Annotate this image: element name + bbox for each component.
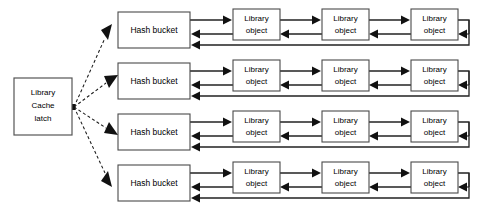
arrow-right-icon <box>312 169 321 178</box>
arrow-right-icon <box>223 16 232 25</box>
latch-links: Library Cache latch <box>14 24 118 187</box>
chain-row-4: Hash bucket Library object Library objec… <box>118 162 469 202</box>
library-object-label-line1: Library <box>333 167 357 176</box>
arrow-right-icon <box>223 118 232 127</box>
arrow-left-icon <box>280 132 289 141</box>
arrow-right-icon <box>223 67 232 76</box>
arrow-left-icon <box>191 132 200 141</box>
arrow-left-icon <box>191 183 200 192</box>
library-object-label-line1: Library <box>422 167 446 176</box>
arrow-left-icon <box>369 81 378 90</box>
library-object-label-line1: Library <box>333 14 357 23</box>
hash-bucket-label: Hash bucket <box>130 178 178 188</box>
library-object-label-line2: object <box>246 128 268 137</box>
library-object-label-line2: object <box>335 179 357 188</box>
arrow-right-icon <box>312 118 321 127</box>
library-object-label-line1: Library <box>244 116 268 125</box>
library-cache-diagram: Hash bucket Library object Library objec… <box>0 0 484 211</box>
library-object-label-line2: object <box>424 26 446 35</box>
chain-row-2: Hash bucket Library object Library objec… <box>118 60 469 100</box>
arrow-left-icon <box>280 183 289 192</box>
library-object-label-line1: Library <box>422 116 446 125</box>
arrow-right-icon <box>401 67 410 76</box>
library-object-label-line1: Library <box>333 65 357 74</box>
chain-row-3: Hash bucket Library object Library objec… <box>118 111 469 151</box>
library-object-label-line2: object <box>335 26 357 35</box>
library-object-label-line2: object <box>246 26 268 35</box>
latch-label-line1: Library <box>31 88 55 97</box>
latch-label-line2: Cache <box>31 101 55 110</box>
arrow-left-icon <box>191 81 200 90</box>
library-object-label-line1: Library <box>333 116 357 125</box>
hash-bucket-label: Hash bucket <box>130 76 178 86</box>
arrow-left-icon <box>369 183 378 192</box>
library-object-label-line2: object <box>424 128 446 137</box>
arrow-left-icon <box>369 30 378 39</box>
library-object-label-line1: Library <box>244 14 268 23</box>
arrow-right-icon <box>401 169 410 178</box>
arrow-left-icon <box>369 132 378 141</box>
diagram-canvas: Hash bucket Library object Library objec… <box>0 0 484 211</box>
library-object-label-line2: object <box>335 128 357 137</box>
latch-to-bucket-1-line <box>74 38 105 107</box>
arrow-left-icon <box>458 183 467 192</box>
arrow-right-icon <box>401 16 410 25</box>
arrow-left-icon <box>280 30 289 39</box>
arrow-left-icon <box>458 132 467 141</box>
latch-to-bucket-2-line <box>74 83 106 107</box>
arrow-dashed-icon <box>104 75 118 88</box>
library-object-label-line2: object <box>246 179 268 188</box>
library-object-label-line2: object <box>246 77 268 86</box>
arrow-dashed-icon <box>101 24 112 40</box>
arrow-left-icon <box>191 92 200 101</box>
library-object-label-line2: object <box>424 179 446 188</box>
arrow-left-icon <box>191 143 200 152</box>
library-object-label-line1: Library <box>422 65 446 74</box>
arrow-right-icon <box>312 16 321 25</box>
arrow-right-icon <box>312 67 321 76</box>
arrow-left-icon <box>191 30 200 39</box>
library-object-label-line1: Library <box>244 167 268 176</box>
arrow-left-icon <box>191 41 200 50</box>
chain-row-1: Hash bucket Library object Library objec… <box>118 9 469 49</box>
arrow-left-icon <box>280 81 289 90</box>
arrow-dashed-icon <box>101 171 112 187</box>
arrow-left-icon <box>458 30 467 39</box>
arrow-right-icon <box>223 169 232 178</box>
hash-bucket-label: Hash bucket <box>130 25 178 35</box>
arrow-dashed-icon <box>104 122 118 135</box>
library-object-label-line2: object <box>335 77 357 86</box>
hash-bucket-label: Hash bucket <box>130 127 178 137</box>
library-object-label-line2: object <box>424 77 446 86</box>
library-object-label-line1: Library <box>244 65 268 74</box>
latch-label-line3: latch <box>35 114 52 123</box>
arrow-left-icon <box>191 194 200 203</box>
library-object-label-line1: Library <box>422 14 446 23</box>
arrow-right-icon <box>401 118 410 127</box>
arrow-left-icon <box>458 81 467 90</box>
